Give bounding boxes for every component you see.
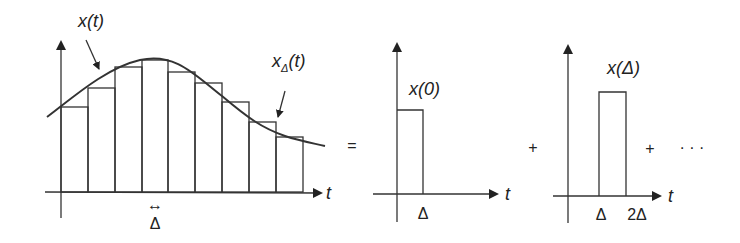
pulse2-rect (599, 92, 626, 196)
pulse1-axis-label: t (505, 184, 511, 204)
approx-pointer-arrow (278, 91, 285, 117)
pulse2-axis-label: t (668, 186, 674, 206)
pulse2-height-label: x(Δ) (606, 58, 640, 78)
equals-sign: = (347, 137, 356, 154)
pulse2-tick-label-2: 2Δ (627, 206, 647, 223)
plus-sign-2: + (645, 140, 654, 157)
main-axis-label: t (326, 183, 332, 203)
pulse1-tick-label: Δ (418, 205, 429, 222)
staircase-decomposition-diagram: x(t) xΔ(t) t ↔ Δ = x(0) t Δ + x(Δ) t Δ 2… (0, 0, 740, 243)
pulse2-tick-label-1: Δ (596, 206, 607, 223)
pulse1-height-label: x(0) (408, 79, 440, 99)
ellipsis: · · · (680, 139, 705, 156)
width-label: Δ (150, 215, 161, 232)
curve-label: x(t) (77, 11, 104, 31)
width-arrow: ↔ (147, 196, 163, 213)
plus-sign-1: + (528, 139, 537, 156)
approx-label: xΔ(t) (271, 51, 305, 74)
curve-pointer-arrow (86, 40, 99, 69)
pulse1-rect (397, 110, 423, 194)
pulse-plot-1 (373, 44, 497, 222)
